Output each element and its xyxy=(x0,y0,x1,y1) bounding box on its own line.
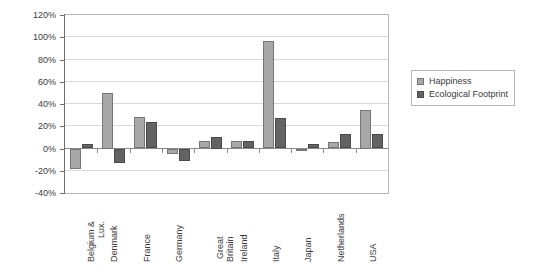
legend-swatch-icon xyxy=(417,91,424,98)
bar-group xyxy=(323,15,355,193)
y-axis-tick-label: -40% xyxy=(35,189,56,198)
bar-group xyxy=(65,15,97,193)
bar-chart: 120%100%80%60%40%20%0%-20%-40% Belgium &… xyxy=(0,0,538,271)
bar-ecological-footprint xyxy=(211,137,222,148)
bar-ecological-footprint xyxy=(114,149,125,163)
legend-item-ecological-footprint: Ecological Footprint xyxy=(417,88,508,101)
bar-happiness xyxy=(360,110,371,149)
y-axis-ticks xyxy=(58,14,64,194)
x-axis-tick xyxy=(194,149,195,153)
y-axis-tick-label: 120% xyxy=(33,11,56,20)
bar-ecological-footprint xyxy=(308,144,319,148)
y-axis-tick-label: 20% xyxy=(38,122,56,131)
x-axis-category-label: USA xyxy=(368,243,378,262)
bar-group xyxy=(259,15,291,193)
y-axis-tick-label: 60% xyxy=(38,77,56,86)
chart-legend: Happiness Ecological Footprint xyxy=(411,70,515,106)
y-axis-tick xyxy=(60,37,64,38)
bar-happiness xyxy=(102,93,113,149)
bar-happiness xyxy=(167,149,178,155)
x-axis-category-label: GreatBritain xyxy=(215,236,235,262)
y-axis-tick-label: 80% xyxy=(38,55,56,64)
legend-item-happiness: Happiness xyxy=(417,75,508,88)
bar-ecological-footprint xyxy=(179,149,190,161)
x-axis-labels: Belgium &Lux.DenmarkFranceGermanyGreatBr… xyxy=(65,196,388,270)
y-axis-tick xyxy=(60,15,64,16)
y-axis-tick-label: 0% xyxy=(43,144,56,153)
legend-swatch-icon xyxy=(417,78,424,85)
bar-happiness xyxy=(70,149,81,169)
y-axis-tick xyxy=(60,149,64,150)
bar-happiness xyxy=(134,117,145,148)
bar-ecological-footprint xyxy=(275,118,286,148)
x-axis-category-label: Ireland xyxy=(239,234,249,262)
x-axis-category-label: France xyxy=(142,234,152,262)
bar-happiness xyxy=(263,41,274,149)
y-axis-tick-label: -20% xyxy=(35,166,56,175)
bar-happiness xyxy=(231,141,242,149)
bar-group xyxy=(194,15,226,193)
bar-group xyxy=(227,15,259,193)
bars-layer xyxy=(65,15,388,193)
bar-group xyxy=(356,15,388,193)
y-axis-tick-label: 40% xyxy=(38,100,56,109)
bar-group xyxy=(130,15,162,193)
x-axis-tick xyxy=(291,149,292,153)
bar-happiness xyxy=(296,149,307,151)
bar-group xyxy=(97,15,129,193)
x-axis-category-label: Japan xyxy=(303,237,313,262)
x-axis-category-label: Denmark xyxy=(109,225,119,262)
bar-ecological-footprint xyxy=(82,144,93,148)
bar-group xyxy=(162,15,194,193)
y-axis-labels: 120%100%80%60%40%20%0%-20%-40% xyxy=(0,14,56,194)
x-axis-tick xyxy=(97,149,98,153)
x-axis-category-label: Netherlands xyxy=(336,213,346,262)
bar-happiness xyxy=(328,142,339,149)
bar-happiness xyxy=(199,141,210,149)
bar-ecological-footprint xyxy=(340,134,351,148)
y-axis-tick xyxy=(60,104,64,105)
x-axis-category-label: Belgium &Lux. xyxy=(86,221,106,262)
bar-ecological-footprint xyxy=(243,141,254,149)
bar-ecological-footprint xyxy=(146,122,157,149)
x-axis-tick xyxy=(227,149,228,153)
x-axis-category-label: Italy xyxy=(271,245,281,262)
x-axis-category-label: Germany xyxy=(174,225,184,262)
y-axis-tick xyxy=(60,60,64,61)
y-axis-tick xyxy=(60,171,64,172)
y-axis-tick xyxy=(60,126,64,127)
legend-label: Happiness xyxy=(429,77,472,86)
y-axis-tick xyxy=(60,193,64,194)
x-axis-tick xyxy=(259,149,260,153)
legend-label: Ecological Footprint xyxy=(429,90,508,99)
bar-group xyxy=(291,15,323,193)
y-axis-tick-label: 100% xyxy=(33,33,56,42)
x-axis-tick xyxy=(356,149,357,153)
x-axis-tick xyxy=(130,149,131,153)
x-axis-tick xyxy=(162,149,163,153)
x-axis-tick xyxy=(323,149,324,153)
bar-ecological-footprint xyxy=(372,134,383,148)
y-axis-tick xyxy=(60,82,64,83)
